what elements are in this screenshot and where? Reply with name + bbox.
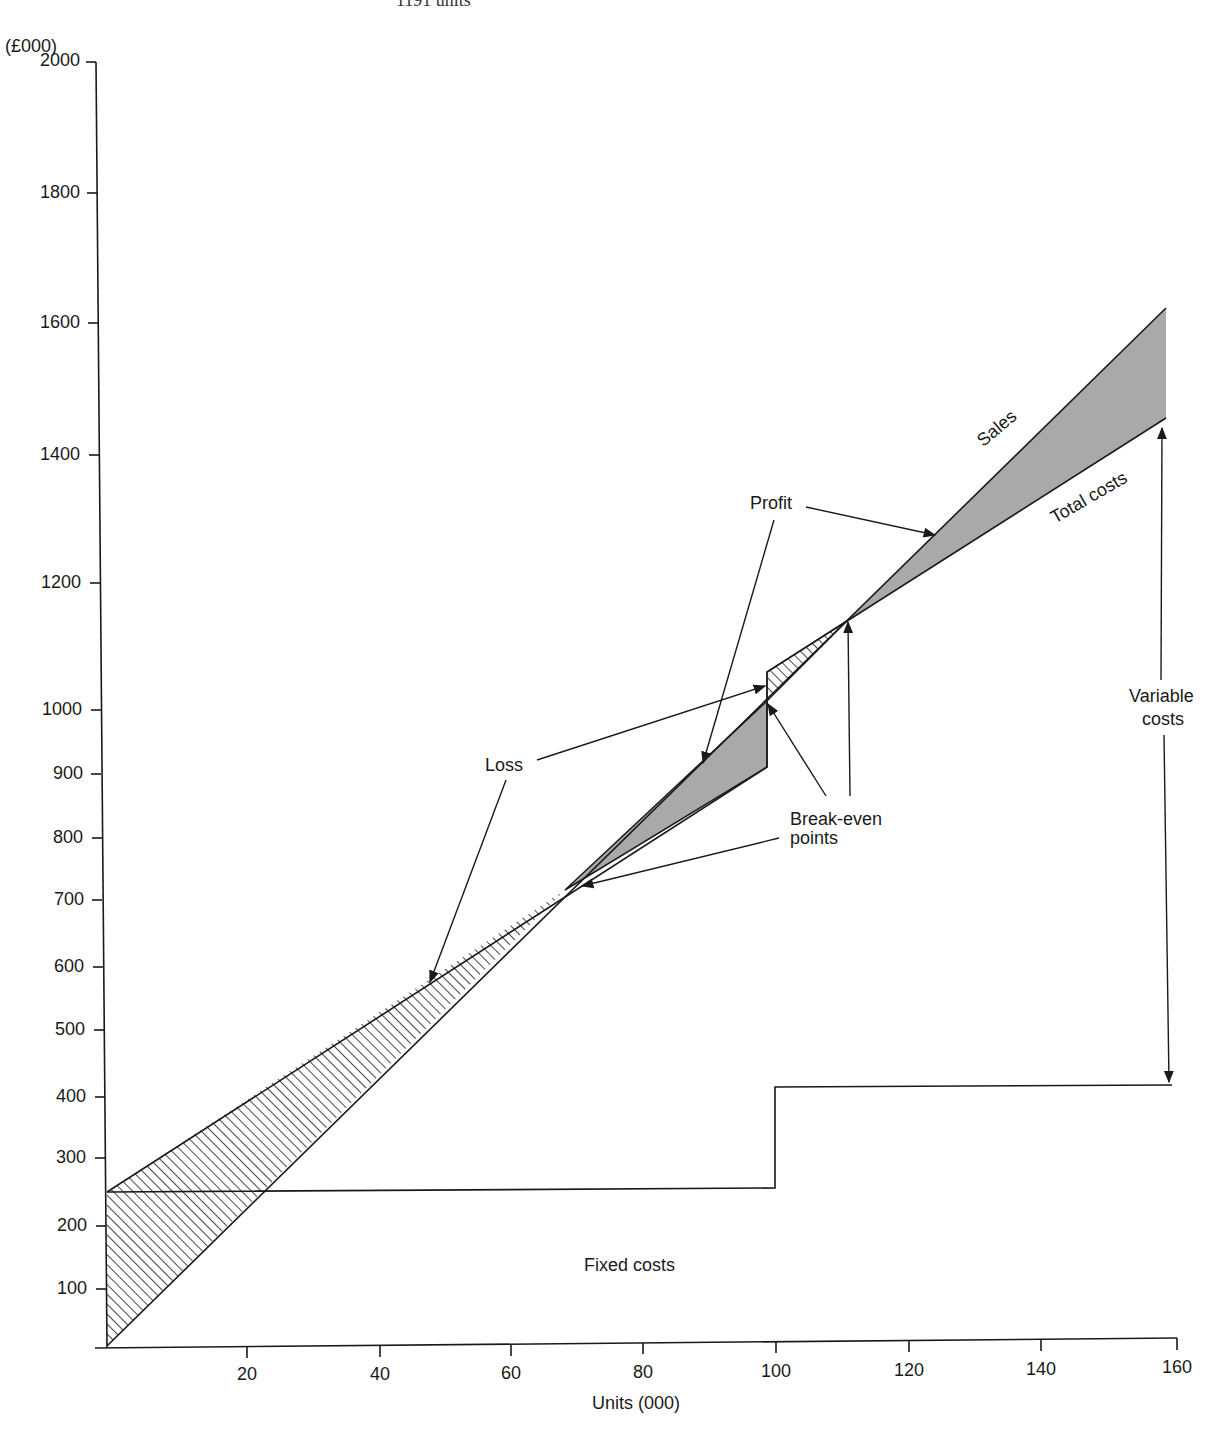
variable-costs-label-line1: Variable [1129,686,1194,707]
fixed-costs-label: Fixed costs [584,1255,675,1276]
y-axis [86,62,107,1348]
y-tick-1400: 1400 [0,444,80,465]
y-tick-1000: 1000 [2,699,82,720]
x-axis-title: Units (000) [592,1393,680,1414]
y-tick-600: 600 [4,956,84,977]
y-tick-300: 300 [6,1147,86,1168]
variable-costs-arrow-up [1161,428,1162,680]
y-tick-400: 400 [6,1086,86,1107]
break-even-label-line2: points [790,828,838,849]
y-tick-800: 800 [3,827,83,848]
x-tick-60: 60 [486,1363,536,1384]
break-even-arrow-2 [768,704,826,796]
break-even-arrow-3 [848,622,850,796]
x-tick-160: 160 [1152,1357,1202,1378]
y-tick-1800: 1800 [0,182,80,203]
y-tick-100: 100 [7,1278,87,1299]
y-tick-500: 500 [5,1019,85,1040]
total-costs-line [107,418,1166,1192]
x-tick-120: 120 [884,1360,934,1381]
x-tick-20: 20 [222,1364,272,1385]
variable-costs-label-line2: costs [1142,709,1184,730]
x-axis [95,1338,1177,1358]
break-even-chart [0,0,1224,1430]
break-even-label-line1: Break-even [790,809,882,830]
loss-label: Loss [485,755,523,776]
x-tick-140: 140 [1016,1359,1066,1380]
y-tick-1200: 1200 [1,572,81,593]
profit-label: Profit [750,493,792,514]
profit-arrow-1 [806,507,935,535]
x-tick-80: 80 [618,1362,668,1383]
y-tick-200: 200 [7,1215,87,1236]
x-tick-40: 40 [355,1364,405,1385]
y-tick-700: 700 [4,889,84,910]
y-tick-900: 900 [3,763,83,784]
y-tick-2000: 2000 [0,50,80,71]
x-tick-100: 100 [751,1361,801,1382]
variable-costs-arrow-down [1164,735,1169,1082]
y-tick-1600: 1600 [0,312,80,333]
